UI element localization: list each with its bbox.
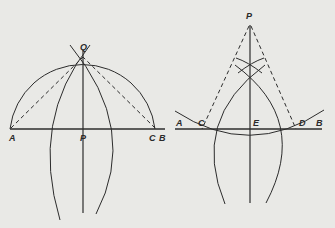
label-p-right: P [246, 11, 253, 21]
geometry-figure: Q A P C B P A C E D B [0, 0, 335, 228]
label-c-right: C [198, 118, 205, 128]
label-a-left: A [8, 133, 16, 143]
label-b-left: B [159, 133, 166, 143]
label-a-right: A [175, 118, 183, 128]
label-q: Q [80, 42, 87, 52]
label-c-left: C [149, 133, 156, 143]
label-p-left: P [80, 133, 87, 143]
label-b-right: B [316, 118, 323, 128]
label-d: D [299, 118, 306, 128]
label-e: E [253, 118, 260, 128]
